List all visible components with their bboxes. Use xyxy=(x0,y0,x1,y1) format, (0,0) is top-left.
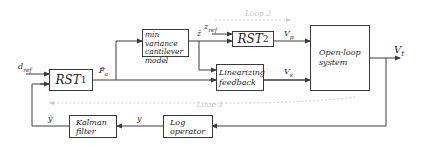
loop-2-label: Loop 2 xyxy=(245,9,271,18)
signal-f-a-hat: F̂a xyxy=(99,66,108,77)
kalman-filter-block: Kalman filter xyxy=(69,115,117,138)
signal-z-hat: ẑ xyxy=(197,29,201,38)
rst1-block: RST1 xyxy=(49,69,93,91)
signal-z-ref: zref xyxy=(204,22,217,33)
block-label: Log xyxy=(170,118,212,127)
block-label: model xyxy=(145,57,186,66)
block-label: Kalman xyxy=(76,118,116,127)
block-label: feedback xyxy=(219,78,261,88)
signal-y: y xyxy=(137,114,142,123)
block-subscript: 2 xyxy=(263,34,269,44)
block-label: filter xyxy=(76,127,116,136)
block-label: RST xyxy=(56,73,81,87)
block-label: operator xyxy=(170,127,212,136)
signal-y-hat: ŷ xyxy=(48,114,53,123)
block-subscript: 1 xyxy=(81,75,87,85)
signal-v-t: Vt xyxy=(394,44,404,58)
rst2-block: RST2 xyxy=(232,31,274,47)
loop-1-label: Loop 1 xyxy=(197,100,223,109)
open-loop-system-block: Open-loop system xyxy=(310,25,370,91)
signal-v-s: Vs xyxy=(284,67,293,78)
linearizing-feedback-block: Linearizing feedback xyxy=(216,64,264,91)
log-operator-block: Log operator xyxy=(163,115,213,138)
signal-v-p: Vp xyxy=(284,29,294,40)
block-label: RST xyxy=(238,32,263,46)
signal-d-ref: dref xyxy=(18,62,32,73)
block-label: Linearizing xyxy=(219,68,261,78)
block-label: system xyxy=(319,58,369,68)
block-label: min variance xyxy=(145,31,186,48)
min-variance-cantilever-model-block: min variance cantilever model xyxy=(142,29,189,57)
block-label: Open-loop xyxy=(319,48,369,58)
control-block-diagram: min variance cantilever model RST1 RST2 … xyxy=(0,0,422,149)
